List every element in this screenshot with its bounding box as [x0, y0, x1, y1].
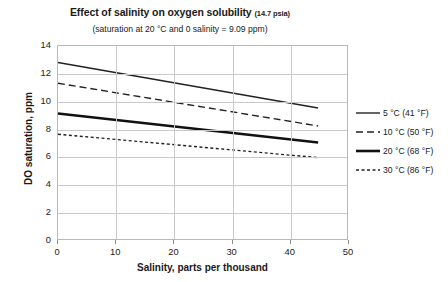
y-axis-tick-label: 10 — [5, 96, 51, 106]
x-axis-tick-mark — [57, 240, 58, 244]
legend-item[interactable]: 10 °C (50 °F) — [356, 122, 448, 141]
legend-line-swatch — [356, 127, 380, 137]
x-axis-tick-label: 40 — [270, 247, 310, 257]
x-axis-tick-label: 10 — [95, 247, 135, 257]
legend-item[interactable]: 30 °C (86 °F) — [356, 160, 448, 179]
legend-line-swatch — [356, 108, 380, 118]
legend-item-label: 10 °C (50 °F) — [383, 127, 433, 137]
chart-title-pressure: (14.7 psia) — [254, 9, 290, 18]
gridline-vertical — [174, 46, 175, 239]
gridline-horizontal — [58, 130, 347, 131]
gridline-horizontal — [58, 185, 347, 186]
chart-title: Effect of salinity on oxygen solubility … — [0, 6, 360, 18]
gridline-vertical — [291, 46, 292, 239]
legend-item[interactable]: 20 °C (68 °F) — [356, 141, 448, 160]
y-axis-tick-label: 12 — [5, 68, 51, 78]
legend-line-swatch — [356, 165, 380, 175]
y-axis-tick-label: 0 — [5, 235, 51, 245]
x-axis-tick-mark — [173, 240, 174, 244]
data-series-line — [58, 83, 318, 126]
chart-figure: Effect of salinity on oxygen solubility … — [0, 0, 448, 282]
x-axis-tick-label: 0 — [37, 247, 77, 257]
x-axis-tick-mark — [348, 240, 349, 244]
plot-area — [57, 45, 348, 240]
y-axis-tick-label: 6 — [5, 151, 51, 161]
chart-legend: 5 °C (41 °F)10 °C (50 °F)20 °C (68 °F)30… — [356, 103, 448, 179]
gridline-horizontal — [58, 213, 347, 214]
chart-subtitle: (saturation at 20 °C and 0 salinity = 9.… — [0, 24, 360, 34]
gridline-vertical — [233, 46, 234, 239]
x-axis-tick-mark — [115, 240, 116, 244]
legend-item-label: 30 °C (86 °F) — [383, 165, 433, 175]
y-axis-tick-label: 4 — [5, 179, 51, 189]
y-axis-tick-label: 2 — [5, 207, 51, 217]
y-axis-tick-label: 14 — [5, 40, 51, 50]
x-axis-title: Salinity, parts per thousand — [57, 262, 348, 273]
gridline-vertical — [116, 46, 117, 239]
x-axis-tick-label: 50 — [328, 247, 368, 257]
legend-line-swatch — [356, 146, 380, 156]
gridline-horizontal — [58, 157, 347, 158]
x-axis-tick-label: 30 — [212, 247, 252, 257]
x-axis-tick-label: 20 — [153, 247, 193, 257]
legend-item[interactable]: 5 °C (41 °F) — [356, 103, 448, 122]
x-axis-tick-mark — [290, 240, 291, 244]
legend-item-label: 20 °C (68 °F) — [383, 146, 433, 156]
chart-title-main: Effect of salinity on oxygen solubility — [70, 6, 252, 18]
gridline-horizontal — [58, 102, 347, 103]
y-axis-tick-label: 8 — [5, 124, 51, 134]
legend-item-label: 5 °C (41 °F) — [383, 108, 429, 118]
gridline-horizontal — [58, 74, 347, 75]
x-axis-tick-mark — [232, 240, 233, 244]
